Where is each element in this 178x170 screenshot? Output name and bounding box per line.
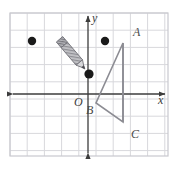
- figure-canvas: y x O A B C: [0, 0, 178, 170]
- y-axis-label: y: [91, 11, 98, 25]
- triangle-abc: [96, 43, 123, 122]
- x-axis-label: x: [157, 93, 164, 107]
- axes: [13, 16, 165, 153]
- point-left: [28, 37, 36, 45]
- vertex-label-a: A: [132, 25, 141, 39]
- coordinate-grid-figure: y x O A B C: [0, 0, 178, 170]
- grid-lines: [10, 13, 168, 156]
- grid-border: [10, 13, 168, 156]
- vertex-label-c: C: [131, 127, 140, 141]
- point-upper-right: [101, 37, 109, 45]
- vertex-label-b: B: [86, 103, 94, 117]
- pencil-icon: [56, 37, 88, 72]
- point-pencil-tip: [84, 69, 93, 78]
- origin-label: O: [74, 95, 83, 109]
